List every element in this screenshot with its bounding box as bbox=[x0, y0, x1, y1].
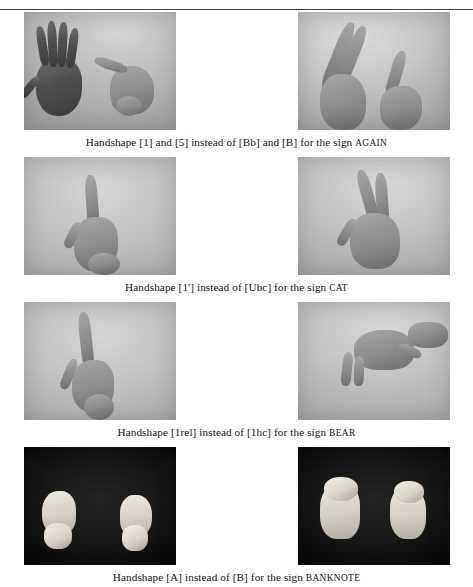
hand-wrist bbox=[408, 322, 448, 348]
caption-bear: Handshape [1rel] instead of [1hc] for th… bbox=[0, 420, 473, 447]
figure-row-again: Handshape [1] and [5] instead of [Bb] an… bbox=[0, 12, 473, 157]
caption-sign-gloss: BANKNOTE bbox=[306, 573, 360, 583]
caption-again: Handshape [1] and [5] instead of [Bb] an… bbox=[0, 130, 473, 157]
hand-wrist bbox=[84, 394, 114, 420]
hand-palm bbox=[380, 86, 422, 130]
hand-finger bbox=[353, 356, 364, 386]
photo-strip bbox=[0, 302, 473, 420]
photo-strip bbox=[0, 157, 473, 275]
caption-text: Handshape [1] and [5] instead of [Bb] an… bbox=[86, 136, 355, 148]
hand-palm bbox=[320, 74, 366, 130]
figure-body: Handshape [1] and [5] instead of [Bb] an… bbox=[0, 12, 473, 587]
hand-knuckle bbox=[116, 96, 142, 116]
caption-sign-gloss: AGAIN bbox=[355, 138, 387, 148]
hand-palm bbox=[350, 213, 400, 269]
hand-knuckles bbox=[394, 481, 424, 503]
figure-row-cat: Handshape [1'] instead of [Ubc] for the … bbox=[0, 157, 473, 302]
caption-text: Handshape [A] instead of [B] for the sig… bbox=[113, 571, 306, 583]
photo-again-left bbox=[24, 12, 176, 130]
caption-cat: Handshape [1'] instead of [Ubc] for the … bbox=[0, 275, 473, 302]
page-header bbox=[0, 0, 473, 12]
hand-wrist bbox=[88, 253, 120, 275]
hand-wrist bbox=[44, 523, 72, 549]
caption-sign-gloss: CAT bbox=[329, 283, 348, 293]
photo-cat-right bbox=[298, 157, 450, 275]
photo-cat-left bbox=[24, 157, 176, 275]
caption-banknote: Handshape [A] instead of [B] for the sig… bbox=[0, 565, 473, 587]
hand-knuckles bbox=[324, 477, 358, 501]
caption-text: Handshape [1'] instead of [Ubc] for the … bbox=[125, 281, 329, 293]
photo-banknote-right bbox=[298, 447, 450, 565]
caption-sign-gloss: BEAR bbox=[329, 428, 355, 438]
figure-row-banknote: Handshape [A] instead of [B] for the sig… bbox=[0, 447, 473, 587]
photo-strip bbox=[0, 12, 473, 130]
header-rule bbox=[0, 9, 473, 10]
hand-wrist bbox=[122, 525, 148, 551]
caption-text: Handshape [1rel] instead of [1hc] for th… bbox=[117, 426, 329, 438]
photo-banknote-left bbox=[24, 447, 176, 565]
figure-row-bear: Handshape [1rel] instead of [1hc] for th… bbox=[0, 302, 473, 447]
photo-bear-right bbox=[298, 302, 450, 420]
photo-again-right bbox=[298, 12, 450, 130]
photo-bear-left bbox=[24, 302, 176, 420]
photo-strip bbox=[0, 447, 473, 565]
running-head bbox=[0, 0, 473, 4]
